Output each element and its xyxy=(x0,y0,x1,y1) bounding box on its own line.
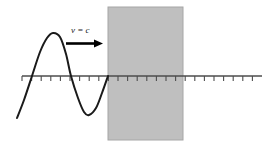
medium-region-block xyxy=(108,7,183,140)
velocity-label: v = c xyxy=(71,25,90,35)
wave-diagram-figure: v = c xyxy=(0,0,269,148)
diagram-canvas: v = c xyxy=(0,0,269,148)
